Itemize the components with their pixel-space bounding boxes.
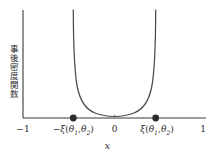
x-tick-label-neg-xi: −ξ(θ1,θ2)	[53, 124, 94, 136]
y-axis-label: 事後密度関数	[6, 26, 20, 118]
x-axis-label: x	[0, 140, 215, 151]
posterior-density-curve	[73, 10, 155, 117]
marker-pos-xi	[152, 115, 159, 122]
close-paren: )	[90, 124, 94, 134]
minus-sign: −	[53, 124, 61, 134]
x-tick-label-right-end: 1	[200, 124, 206, 134]
plot-svg	[22, 10, 206, 122]
close-paren: )	[170, 124, 174, 134]
x-axis-tick-labels: −1 −ξ(θ1,θ2) 0 ξ(θ1,θ2) 1	[0, 124, 215, 140]
marker-neg-xi	[70, 115, 77, 122]
x-tick-label-pos-xi: ξ(θ1,θ2)	[140, 124, 174, 136]
plot-area	[22, 10, 206, 122]
x-tick-label-left-end: −1	[16, 124, 29, 134]
posterior-density-figure: 事後密度関数 −1 −ξ(θ1,θ2) 0 ξ(θ1,θ2) 1 x	[0, 0, 215, 160]
x-tick-label-zero: 0	[112, 124, 118, 134]
